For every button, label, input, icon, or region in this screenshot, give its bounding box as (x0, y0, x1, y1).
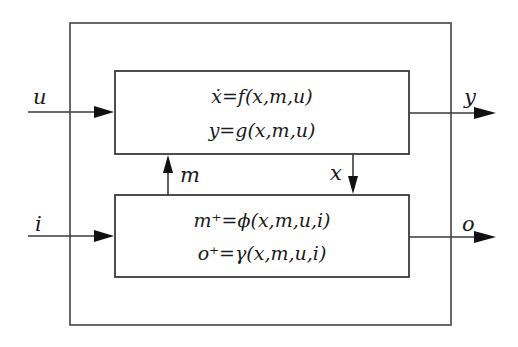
lower-block (115, 195, 409, 277)
arrowhead-icon (94, 230, 114, 242)
output-o-arrow (409, 231, 496, 243)
arrowhead-icon (474, 231, 496, 243)
output-o-label: o (462, 212, 475, 236)
arrowhead-icon (163, 155, 173, 173)
upper-block-equation-2: y=g(x,m,u) (208, 119, 316, 141)
input-i-label: i (35, 212, 42, 236)
lower-block-equation-1: m⁺=ϕ(x,m,u,i) (194, 209, 331, 231)
arrowhead-icon (94, 106, 114, 118)
input-u-label: u (33, 85, 47, 109)
internal-m-label: m (180, 163, 200, 187)
internal-m-arrow (163, 155, 173, 195)
upper-block-equation-1: ẋ=f(x,m,u) (211, 85, 313, 107)
output-y-arrow (409, 107, 496, 119)
arrowhead-icon (474, 107, 496, 119)
upper-block (115, 71, 409, 154)
internal-x-label: x (330, 161, 342, 185)
lower-block-equation-2: o⁺=γ(x,m,u,i) (198, 242, 327, 264)
arrowhead-icon (348, 176, 358, 194)
outer-system-boundary (70, 23, 451, 325)
output-y-label: y (463, 85, 477, 109)
system-block-diagram: u i ẋ=f(x,m,u) y=g(x,m,u) m⁺=ϕ(x,m,u,i) … (0, 0, 518, 347)
internal-x-arrow (348, 154, 358, 194)
